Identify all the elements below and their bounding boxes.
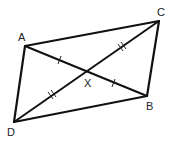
vertex-label-c: C bbox=[157, 6, 165, 18]
side-da bbox=[14, 46, 25, 122]
vertex-label-b: B bbox=[146, 100, 153, 112]
vertex-label-a: A bbox=[18, 31, 26, 43]
side-ac bbox=[25, 21, 159, 46]
side-cb bbox=[147, 21, 159, 96]
parallelogram-diagram: A C B D X bbox=[0, 0, 172, 141]
intersection-label-x: X bbox=[84, 77, 92, 89]
vertex-label-d: D bbox=[7, 126, 15, 138]
